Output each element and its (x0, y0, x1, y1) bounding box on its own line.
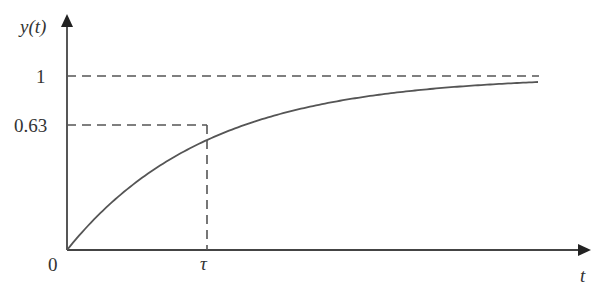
y-axis-arrow-icon (61, 14, 73, 27)
y-tick-063: 0.63 (14, 116, 47, 135)
diagram-canvas (0, 0, 596, 292)
response-curve (67, 82, 538, 250)
x-axis-arrow-icon (578, 244, 591, 256)
x-axis-label: t (580, 266, 585, 285)
origin-label: 0 (48, 255, 58, 274)
y-tick-1: 1 (36, 67, 46, 86)
y-axis-label: y(t) (20, 17, 46, 36)
time-constant-diagram: y(t) 1 0.63 0 τ t (0, 0, 596, 292)
x-tick-tau: τ (200, 254, 207, 273)
